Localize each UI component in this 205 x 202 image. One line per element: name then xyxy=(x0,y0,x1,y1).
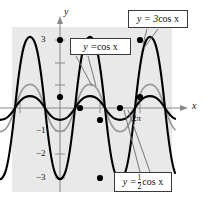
x-axis-label: x xyxy=(192,100,196,111)
y-tick-label-neg2: −2 xyxy=(36,148,46,158)
callout-3-cos-x-body: cos x xyxy=(158,14,179,24)
fraction-one-half: 12 xyxy=(138,174,142,190)
callout-cos-x-prefix: y = xyxy=(83,42,97,52)
callout-cos-x-body: cos x xyxy=(97,42,118,52)
x-tick-label-2pi: 2π xyxy=(132,113,141,123)
point-halfcos-zero-a xyxy=(77,105,83,111)
point-3cos-min-pi xyxy=(97,175,103,181)
point-3cos-max-2pi xyxy=(137,37,143,43)
callout-half-cos-x: y = 12cos x xyxy=(114,172,172,192)
callout-3-cos-x-prefix: y = 3 xyxy=(137,14,158,24)
y-tick-label-neg3: −3 xyxy=(36,172,46,182)
point-halfcos-zero-b xyxy=(117,105,123,111)
y-tick-label-neg1: −1 xyxy=(36,125,46,135)
cosine-amplitude-figure: y x 3 −1 −2 −3 2π y = cos x y = 3 cos x … xyxy=(0,0,205,202)
point-halfcos-max-2pi xyxy=(137,94,143,100)
y-axis-label: y xyxy=(64,6,68,17)
fraction-numerator: 1 xyxy=(138,174,142,182)
callout-3-cos-x: y = 3 cos x xyxy=(128,10,188,28)
point-halfcos-min-pi xyxy=(97,117,103,123)
callout-half-cos-x-prefix: y = xyxy=(123,177,137,187)
callout-cos-x: y = cos x xyxy=(70,38,131,55)
y-tick-label-3: 3 xyxy=(41,34,46,44)
point-3cos-max-0 xyxy=(57,37,63,43)
fraction-denominator: 2 xyxy=(138,182,142,191)
callout-half-cos-x-body: cos x xyxy=(142,177,163,187)
point-halfcos-max-0 xyxy=(57,94,63,100)
plot-canvas xyxy=(0,0,205,202)
